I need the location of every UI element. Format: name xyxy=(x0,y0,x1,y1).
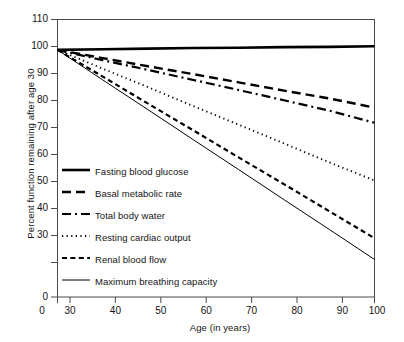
x-tick-100: 100 xyxy=(362,305,392,316)
x-tick-70: 70 xyxy=(237,305,267,316)
legend-label-total-body-water: Total body water xyxy=(95,210,165,221)
legend-label-resting-cardiac-output: Resting cardiac output xyxy=(95,232,191,243)
x-tick-40: 40 xyxy=(100,305,130,316)
x-axis-title: Age (in years) xyxy=(140,322,300,333)
plot-area xyxy=(0,0,404,342)
x-tick-0: 0 xyxy=(27,305,57,316)
x-tick-60: 60 xyxy=(191,305,221,316)
y-axis-ticks xyxy=(51,20,58,298)
legend-label-maximum-breathing-capacity: Maximum breathing capacity xyxy=(95,276,217,287)
x-tick-80: 80 xyxy=(282,305,312,316)
x-axis-ticks xyxy=(58,297,375,303)
legend-label-fasting-blood-glucose: Fasting blood glucose xyxy=(95,166,188,177)
y-tick-110: 110 xyxy=(22,13,48,24)
y-tick-100: 100 xyxy=(22,40,48,51)
y-axis-title: Percent function remaining after age 30 xyxy=(25,64,36,244)
y-tick-0: 0 xyxy=(22,291,48,302)
x-tick-50: 50 xyxy=(146,305,176,316)
legend-label-basal-metabolic-rate: Basal metabolic rate xyxy=(95,188,182,199)
legend-label-renal-blood-flow: Renal blood flow xyxy=(95,254,166,265)
x-tick-30: 30 xyxy=(55,305,85,316)
chart-figure: 110 100 90 80 70 60 50 40 30 0 0 30 40 5… xyxy=(0,0,404,342)
x-tick-90: 90 xyxy=(327,305,357,316)
